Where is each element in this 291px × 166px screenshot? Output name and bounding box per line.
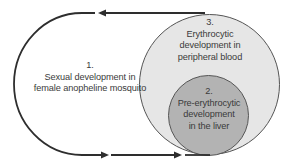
stage-2-label: 2. Pre-erythrocytic development in the l… [163,86,255,132]
stage-3-text-line: development in [155,40,265,52]
arrow-right-icon [174,152,182,159]
stage-2-text-line: Pre-erythrocytic [163,98,255,110]
stage-1-label: 1. Sexual development in female anopheli… [20,60,160,95]
stage-3-text-line: peripheral blood [155,52,265,64]
stage-2-number: 2. [163,86,255,98]
stage-3-number: 3. [155,17,265,29]
stage-1-number: 1. [20,60,160,72]
stage-1-text-line: female anopheline mosquito [20,83,160,95]
stage-2-text-line: development [163,109,255,121]
stage-3-label: 3. Erythrocytic development in periphera… [155,17,265,63]
stage-3-text-line: Erythrocytic [155,29,265,41]
stage-1-text-line: Sexual development in [20,72,160,84]
stage-2-text-line: in the liver [163,121,255,133]
arrow-right-icon [101,152,109,159]
arrow-left-icon [98,10,106,17]
